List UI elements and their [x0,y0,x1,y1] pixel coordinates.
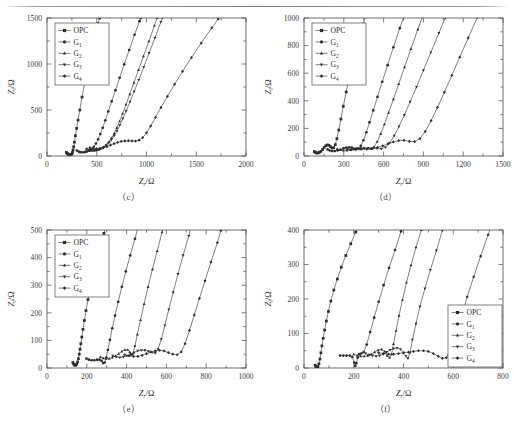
legend[interactable]: OPCG1G2G3G4 [55,23,109,85]
y-tick-label: 1000 [284,14,299,23]
chart-e: 020040060080010000100200300400500Zr/ΩZi/… [0,216,257,402]
x-tick-label: 200 [348,372,360,381]
y-tick-label: 1500 [27,14,42,23]
caption-f: （f） [257,402,514,415]
x-tick-label: 600 [378,160,390,169]
svg-text:Zi/Ω: Zi/Ω [263,291,274,306]
x-tick-label: 600 [448,372,460,381]
x-tick-label: 1000 [238,372,253,381]
svg-text:Zi/Ω: Zi/Ω [263,79,274,94]
x-tick-label: 1000 [139,160,154,169]
panel-f: 02004006008000100200300400Zr/ΩZi/ΩOPCG1G… [257,216,514,424]
svg-text:Zr/Ω: Zr/Ω [139,388,155,399]
plot-d: 03006009001200150002004006008001000Zr/ΩZ… [257,4,514,190]
x-tick-label: 0 [45,372,49,381]
y-tick-label: 200 [288,124,300,133]
x-tick-label: 1500 [495,160,510,169]
svg-text:Zr/Ω: Zr/Ω [396,176,412,187]
y-tick-label: 400 [288,226,300,235]
y-tick-label: 300 [31,281,43,290]
y-tick-label: 500 [31,106,43,115]
series-G3 [111,227,192,359]
caption-c: （c） [0,190,257,203]
y-tick-label: 300 [288,260,300,269]
x-axis-title: Zr/Ω [139,388,155,399]
x-tick-label: 400 [398,372,410,381]
legend-label: OPC [467,308,482,317]
x-tick-label: 900 [418,160,430,169]
y-tick-label: 100 [288,329,300,338]
x-tick-label: 400 [121,372,133,381]
caption-d: （d） [257,190,514,203]
x-tick-label: 200 [81,372,93,381]
x-tick-label: 800 [497,372,509,381]
panel-c: 0500100015002000050010001500Zr/ΩZi/ΩOPCG… [0,4,257,216]
y-tick-label: 0 [295,364,299,373]
caption-e: （e） [0,402,257,415]
y-tick-label: 600 [288,69,300,78]
panel-d: 03006009001200150002004006008001000Zr/ΩZ… [257,4,514,216]
svg-text:Zi/Ω: Zi/Ω [6,291,17,306]
chart-d: 03006009001200150002004006008001000Zr/ΩZ… [257,4,514,190]
x-tick-label: 2000 [238,160,253,169]
chart-f: 02004006008000100200300400Zr/ΩZi/ΩOPCG1G… [257,216,514,402]
y-axis-title: Zi/Ω [263,291,274,306]
y-tick-label: 400 [31,253,43,262]
x-tick-label: 0 [302,372,306,381]
x-axis-title: Zr/Ω [139,176,155,187]
y-tick-label: 0 [295,152,299,161]
y-tick-label: 1000 [27,60,42,69]
x-tick-label: 600 [161,372,173,381]
x-tick-label: 0 [302,160,306,169]
plot-f: 02004006008000100200300400Zr/ΩZi/ΩOPCG1G… [257,216,514,402]
panel-e: 020040060080010000100200300400500Zr/ΩZi/… [0,216,257,424]
y-tick-label: 100 [31,336,43,345]
legend[interactable]: OPCG1G2G3G4 [448,305,502,367]
legend[interactable]: OPCG1G2G3G4 [55,235,109,297]
svg-text:Zi/Ω: Zi/Ω [6,79,17,94]
y-axis-title: Zi/Ω [263,79,274,94]
y-tick-label: 800 [288,41,300,50]
legend-label: OPC [331,26,346,35]
figure-page: 0500100015002000050010001500Zr/ΩZi/ΩOPCG… [0,0,514,424]
series-G4 [350,16,478,151]
y-tick-label: 0 [38,152,42,161]
x-tick-label: 0 [45,160,49,169]
svg-text:Zr/Ω: Zr/Ω [396,388,412,399]
svg-text:Zr/Ω: Zr/Ω [139,176,155,187]
chart-c: 0500100015002000050010001500Zr/ΩZi/ΩOPCG… [0,4,257,190]
y-tick-label: 200 [31,309,43,318]
series-G3 [364,230,443,360]
y-tick-label: 500 [31,226,43,235]
legend-label: OPC [74,26,89,35]
y-axis-title: Zi/Ω [6,291,17,306]
legend-label: OPC [74,238,89,247]
x-axis-title: Zr/Ω [396,388,412,399]
y-axis-title: Zi/Ω [6,79,17,94]
y-tick-label: 200 [288,295,300,304]
y-tick-label: 0 [38,364,42,373]
plot-c: 0500100015002000050010001500Zr/ΩZi/ΩOPCG… [0,4,257,190]
legend[interactable]: OPCG1G2G3G4 [312,23,366,85]
y-tick-label: 400 [288,97,300,106]
x-axis-title: Zr/Ω [396,176,412,187]
series-OPC [314,227,359,368]
x-tick-label: 500 [91,160,103,169]
x-tick-label: 1500 [189,160,204,169]
x-tick-label: 300 [338,160,350,169]
x-tick-label: 800 [201,372,213,381]
x-tick-label: 1200 [456,160,471,169]
plot-e: 020040060080010000100200300400500Zr/ΩZi/… [0,216,257,402]
